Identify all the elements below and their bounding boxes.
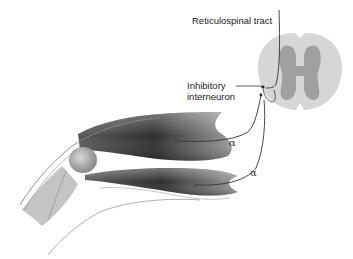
alpha-label-lower: α xyxy=(250,167,257,178)
inhibitory-interneuron-label-2: interneuron xyxy=(187,91,235,102)
inhibitory-interneuron-label-1: Inhibitory xyxy=(187,80,226,91)
anatomy-diagram xyxy=(0,0,353,259)
lower-leg-bones xyxy=(22,166,78,226)
knee-cap xyxy=(69,147,97,173)
alpha-label-upper: α xyxy=(229,137,236,148)
reticulospinal-tract-label: Reticulospinal tract xyxy=(192,15,272,26)
interneuron-cell xyxy=(261,85,264,88)
skin-outline-bottom xyxy=(48,199,200,255)
